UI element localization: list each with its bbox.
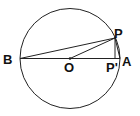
label-p-prime: P' (106, 60, 118, 75)
label-p: P (114, 26, 123, 41)
label-b: B (3, 52, 12, 67)
label-a: A (122, 54, 132, 69)
segment-bp (20, 38, 115, 59)
geometry-diagram: B O P P' A (0, 0, 140, 116)
segment-op (70, 38, 115, 59)
label-o: O (64, 60, 74, 75)
